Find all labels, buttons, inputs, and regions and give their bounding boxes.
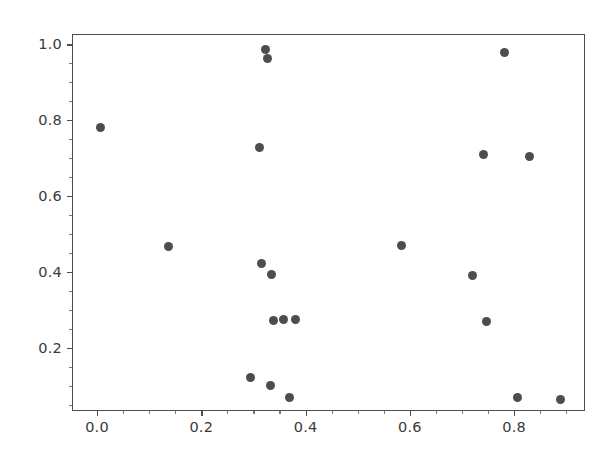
x-axis-minor-tick (227, 411, 228, 414)
y-axis-tick-label: 1.0 (38, 36, 62, 52)
plot-axes-area (72, 34, 585, 411)
data-point (261, 45, 270, 54)
data-point (96, 123, 105, 132)
x-axis-minor-tick (384, 411, 385, 414)
x-axis-minor-tick (253, 411, 254, 414)
y-axis-tick-label: 0.4 (38, 264, 62, 280)
y-axis-minor-tick (69, 386, 72, 387)
x-axis-tick-label: 0.8 (502, 419, 526, 435)
data-point (255, 143, 264, 152)
x-axis-minor-tick (566, 411, 567, 414)
data-point (164, 242, 173, 251)
y-axis-minor-tick (69, 101, 72, 102)
x-axis-tick-label: 0.0 (85, 419, 109, 435)
data-point (266, 381, 275, 390)
x-axis-tick-label: 0.4 (294, 419, 318, 435)
y-axis-minor-tick (69, 177, 72, 178)
x-axis-minor-tick (436, 411, 437, 414)
data-point (267, 270, 276, 279)
y-axis-minor-tick (69, 253, 72, 254)
x-axis-minor-tick (540, 411, 541, 414)
y-axis-tick (67, 272, 72, 273)
x-axis-minor-tick (279, 411, 280, 414)
data-point (285, 393, 294, 402)
y-axis-minor-tick (69, 329, 72, 330)
data-point-layer (73, 35, 584, 410)
y-axis-minor-tick (69, 63, 72, 64)
y-axis-minor-tick (69, 82, 72, 83)
x-axis-tick (514, 411, 515, 416)
x-axis-tick-label: 0.2 (189, 419, 213, 435)
y-axis-tick-label: 0.8 (38, 112, 62, 128)
data-point (556, 395, 565, 404)
x-axis-tick (410, 411, 411, 416)
data-point (257, 259, 266, 268)
x-axis-minor-tick (149, 411, 150, 414)
data-point (291, 315, 300, 324)
y-axis-tick (67, 44, 72, 45)
data-point (397, 241, 406, 250)
y-axis-minor-tick (69, 405, 72, 406)
x-axis-tick (306, 411, 307, 416)
y-axis-tick (67, 120, 72, 121)
x-axis-minor-tick (175, 411, 176, 414)
y-axis-minor-tick (69, 215, 72, 216)
data-point (468, 271, 477, 280)
y-axis-minor-tick (69, 291, 72, 292)
data-point (482, 317, 491, 326)
x-axis-tick-label: 0.6 (398, 419, 422, 435)
data-point (279, 315, 288, 324)
data-point (246, 373, 255, 382)
data-point (263, 54, 272, 63)
y-axis-tick (67, 348, 72, 349)
x-axis-minor-tick (332, 411, 333, 414)
data-point (525, 152, 534, 161)
x-axis-minor-tick (488, 411, 489, 414)
data-point (479, 150, 488, 159)
y-axis-minor-tick (69, 367, 72, 368)
data-point (500, 48, 509, 57)
x-axis-tick (201, 411, 202, 416)
y-axis-minor-tick (69, 158, 72, 159)
x-axis-tick (97, 411, 98, 416)
y-axis-tick-label: 0.6 (38, 188, 62, 204)
data-point (269, 316, 278, 325)
y-axis-minor-tick (69, 139, 72, 140)
y-axis-minor-tick (69, 310, 72, 311)
y-axis-tick-label: 0.2 (38, 340, 62, 356)
scatter-plot-figure: 0.00.20.40.60.80.20.40.60.81.0 (0, 0, 614, 466)
y-axis-minor-tick (69, 234, 72, 235)
data-point (513, 393, 522, 402)
x-axis-minor-tick (462, 411, 463, 414)
x-axis-minor-tick (358, 411, 359, 414)
x-axis-minor-tick (123, 411, 124, 414)
y-axis-tick (67, 196, 72, 197)
